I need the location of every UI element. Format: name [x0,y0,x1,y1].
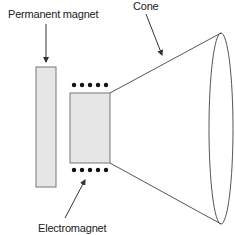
cone-arrow [146,14,162,55]
electromagnet-arrow [65,180,85,218]
speaker-diagram: Permanent magnet Cone Electromagnet [0,0,235,235]
permanent-magnet [36,67,56,187]
electromagnet [70,93,110,163]
coil-dots-bottom [72,168,108,172]
electromagnet-label: Electromagnet [38,222,106,234]
coil-dots-top [72,83,108,87]
cone [110,33,233,224]
permanent-magnet-label: Permanent magnet [8,8,98,20]
cone-label: Cone [133,0,159,12]
